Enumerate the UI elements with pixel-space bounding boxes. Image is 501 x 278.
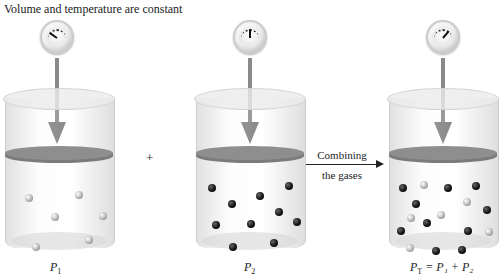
molecule-dark bbox=[397, 227, 405, 235]
molecule-dark bbox=[458, 246, 466, 254]
arrow-right-icon bbox=[376, 160, 384, 168]
molecule-dark bbox=[483, 206, 491, 214]
piston bbox=[5, 146, 113, 168]
pressure-gauge-icon bbox=[426, 20, 460, 54]
molecule-light bbox=[25, 194, 33, 202]
molecule-dark bbox=[208, 184, 216, 192]
diagram-title: Volume and temperature are constant bbox=[4, 2, 182, 17]
pressure-label-p2: P2 bbox=[244, 260, 255, 276]
pressure-label-p1: P1 bbox=[50, 260, 61, 276]
molecule-light bbox=[32, 243, 40, 251]
combining-label-line1: Combining bbox=[306, 148, 378, 162]
molecule-dark bbox=[228, 200, 236, 208]
molecule-dark bbox=[256, 192, 264, 200]
molecule-light bbox=[420, 181, 428, 189]
molecule-light bbox=[463, 198, 471, 206]
molecule-dark bbox=[247, 220, 255, 228]
molecule-dark bbox=[464, 227, 472, 235]
molecule-light bbox=[75, 191, 83, 199]
beaker-mixture bbox=[389, 88, 497, 256]
molecule-dark bbox=[212, 221, 220, 229]
molecule-dark bbox=[293, 218, 301, 226]
beaker-gas-1 bbox=[5, 88, 113, 256]
molecule-dark bbox=[444, 184, 452, 192]
molecule-dark bbox=[285, 182, 293, 190]
molecule-dark bbox=[270, 239, 278, 247]
molecule-light bbox=[99, 212, 107, 220]
molecule-light bbox=[485, 228, 493, 236]
plus-sign: + bbox=[146, 150, 153, 166]
pressure-gauge-icon bbox=[233, 20, 267, 54]
molecule-dark bbox=[275, 208, 283, 216]
molecule-light bbox=[85, 236, 93, 244]
molecule-dark bbox=[432, 247, 440, 255]
pressure-gauge-icon bbox=[40, 20, 74, 54]
pressure-label-total: PT = P₁ + P₂ bbox=[410, 260, 473, 276]
beaker-gas-2 bbox=[196, 88, 304, 256]
molecule-light bbox=[406, 244, 414, 252]
molecule-dark bbox=[412, 200, 420, 208]
molecule-dark bbox=[472, 182, 480, 190]
molecule-dark bbox=[229, 243, 237, 251]
molecule-dark bbox=[399, 184, 407, 192]
molecule-light bbox=[437, 211, 445, 219]
piston bbox=[389, 146, 497, 168]
piston bbox=[196, 146, 304, 168]
molecule-dark bbox=[423, 219, 431, 227]
combining-label-line2: the gases bbox=[306, 168, 378, 182]
molecule-light bbox=[407, 214, 415, 222]
molecule-light bbox=[51, 213, 59, 221]
